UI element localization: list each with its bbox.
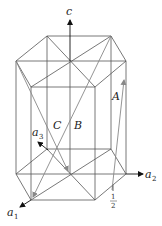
label-a2-sub: 2 — [152, 175, 156, 183]
label-b-vector: B — [73, 119, 82, 132]
label-c-vector: C — [53, 119, 62, 132]
label-c: c — [66, 5, 72, 18]
label-a1: a — [7, 206, 14, 219]
label-a-vector: A — [111, 90, 120, 103]
a1-axis — [20, 200, 31, 207]
label-a3-sub: 3 — [39, 133, 43, 141]
hexagonal-lattice-diagram: c A B C a 3 a 2 a 1 1 2 — [0, 0, 162, 226]
half-denominator: 2 — [111, 202, 115, 210]
vector-b — [33, 36, 111, 197]
a3-axis — [38, 142, 48, 150]
label-a1-sub: 1 — [14, 213, 18, 221]
bottom-hexagon — [16, 149, 126, 200]
axes — [20, 20, 143, 207]
label-a2: a — [145, 168, 152, 181]
half-numerator: 1 — [111, 193, 115, 201]
vector-c — [16, 61, 68, 171]
label-a3: a — [32, 126, 39, 139]
top-hexagon — [16, 36, 126, 87]
